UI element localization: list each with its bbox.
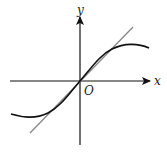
function-graph: y x O bbox=[0, 0, 167, 153]
x-axis-label: x bbox=[154, 74, 161, 88]
y-axis-label: y bbox=[76, 3, 84, 17]
origin-label: O bbox=[84, 84, 94, 98]
